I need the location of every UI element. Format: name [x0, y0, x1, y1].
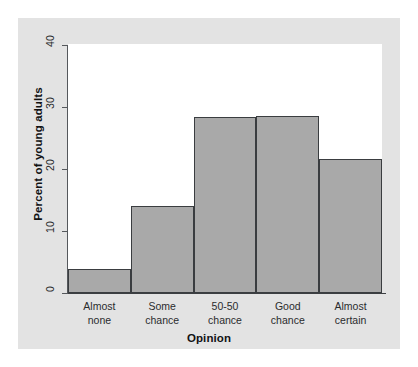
y-axis-title: Percent of young adults: [32, 54, 44, 254]
y-tick-label-10: 10: [44, 217, 56, 237]
y-tick-30: [62, 107, 68, 108]
y-tick-10: [62, 231, 68, 232]
bar-2: [194, 117, 257, 293]
bar-0: [68, 269, 131, 293]
x-tick-label-4: Almostcertain: [319, 300, 382, 327]
histogram-figure: 0 10 20 30 40 Percent of young adults Al…: [0, 0, 418, 367]
x-tick-label-0: Almostnone: [68, 300, 131, 327]
y-tick-40: [62, 45, 68, 46]
x-tick-label-1: Somechance: [131, 300, 194, 327]
y-tick-label-30: 30: [44, 93, 56, 113]
bar-3: [256, 116, 319, 293]
y-tick-20: [62, 169, 68, 170]
x-tick-label-3: Goodchance: [256, 300, 319, 327]
bar-4: [319, 159, 382, 293]
y-tick-label-20: 20: [44, 155, 56, 175]
y-tick-0: [62, 293, 68, 294]
y-tick-label-0-wrap: 0: [40, 283, 60, 303]
x-tick-label-2: 50-50chance: [194, 300, 257, 327]
y-tick-label-40: 40: [44, 31, 56, 51]
bar-1: [131, 206, 194, 293]
x-axis-line: [62, 293, 386, 294]
y-tick-label-0: 0: [44, 279, 56, 299]
y-tick-label-40-wrap: 40: [40, 35, 60, 55]
x-axis-title: Opinion: [0, 332, 418, 344]
